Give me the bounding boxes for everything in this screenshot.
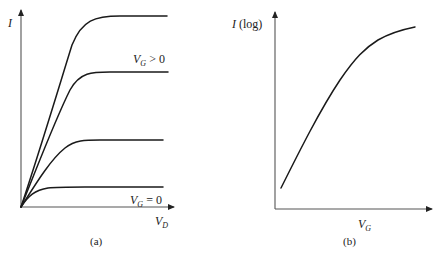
x-axis-label-a: VD [155,214,168,230]
annotation-vg-zero: VG = 0 [130,193,162,209]
curve-b [281,27,415,188]
caption-b: (b) [343,235,356,248]
caption-a: (a) [90,235,103,248]
figure-canvas: I VG > 0 VG = 0 VD (a) I (log) VG (b) [0,0,438,253]
curve-a-3 [21,140,163,207]
curve-a-1 [21,16,167,207]
annotation-vg-positive: VG > 0 [133,52,165,68]
panel-a: I VG > 0 VG = 0 VD (a) [7,10,174,248]
y-axis-label-a: I [7,16,13,30]
panel-b: I (log) VG (b) [231,12,432,248]
x-axis-label-b: VG [358,217,371,233]
y-axis-label-b: I (log) [231,17,262,31]
